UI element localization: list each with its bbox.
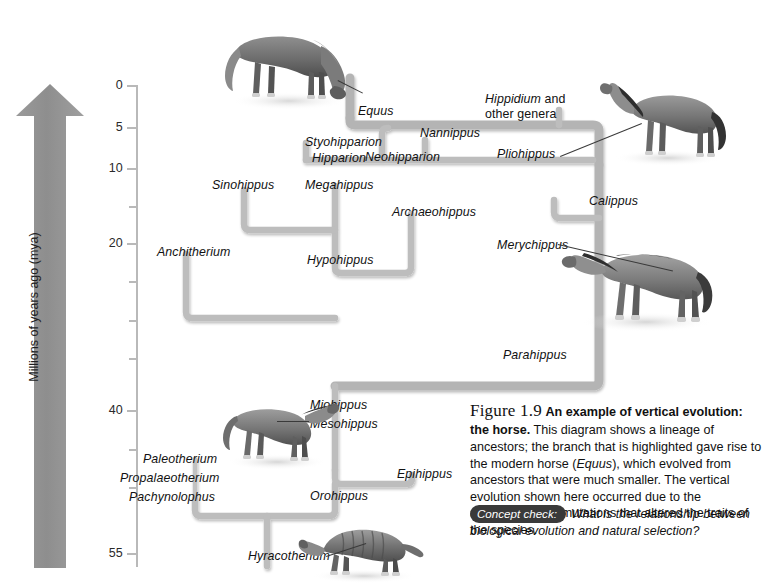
taxon-label-parahippus: Parahippus	[503, 348, 567, 362]
taxon-label-neohipparion: Neohipparion	[365, 150, 440, 164]
taxon-label-pachynolophus: Pachynolophus	[129, 490, 215, 504]
taxon-label-anchitherium: Anchitherium	[157, 245, 231, 259]
taxon-label-paleotherium: Paleotherium	[143, 452, 217, 466]
taxon-label-orohippus: Orohippus	[310, 489, 368, 503]
illustration-mesohippus-horse	[213, 390, 341, 474]
hippidium-and-word: and	[541, 92, 566, 106]
taxon-label-pliohippus: Pliohippus	[497, 147, 555, 161]
concept-check-tag: Concept check:	[470, 505, 566, 523]
taxon-label-propalaeotherium: Propalaeotherium	[120, 471, 219, 485]
taxon-label-archaeohippus: Archaeohippus	[392, 205, 476, 219]
figure-body-genus: Equus	[576, 457, 612, 471]
illustration-hyracotherium-animal	[298, 518, 430, 584]
figure-canvas: 0 5 10 20 40 55 Millions of years ago (m…	[0, 0, 771, 586]
figure-number: Figure 1.9	[470, 401, 542, 420]
hippidium-genus-name: Hippidium	[485, 92, 541, 106]
taxon-label-equus: Equus	[358, 104, 394, 118]
taxon-label-epihippus: Epihippus	[397, 467, 452, 481]
leader-line-mesohippus	[277, 421, 309, 422]
illustration-modern-horse-grazing	[213, 16, 363, 112]
concept-check-block: Concept check:What is the relationship b…	[470, 505, 762, 539]
illustration-pliohippus-horse	[598, 70, 738, 170]
taxon-label-hippidium-and-other-genera: Hippidium and other genera	[485, 92, 605, 121]
taxon-label-hipparion: Hipparion	[312, 151, 366, 165]
taxon-label-calippus: Calippus	[589, 194, 638, 208]
taxon-label-megahippus: Megahippus	[305, 178, 374, 192]
taxon-label-styohipparion: Styohipparion	[305, 135, 382, 149]
taxon-label-sinohippus: Sinohippus	[212, 178, 274, 192]
taxon-label-hypohippus: Hypohippus	[307, 253, 373, 267]
hippidium-other-genera-word: other genera	[485, 107, 556, 121]
illustration-merychippus-horse	[560, 226, 730, 338]
taxon-label-nannippus: Nannippus	[420, 126, 480, 140]
